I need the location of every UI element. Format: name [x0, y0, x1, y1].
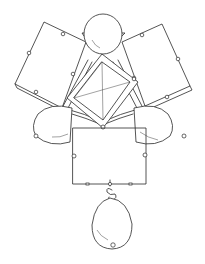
right-pearl [134, 106, 186, 144]
left-pearl [33, 106, 72, 144]
pendant-sketch [0, 0, 205, 264]
right-plaque [122, 24, 192, 110]
top-pearl [82, 14, 125, 54]
drop-pearl [92, 198, 132, 249]
drop-bail [107, 180, 116, 200]
pendant-drawing [0, 0, 205, 264]
